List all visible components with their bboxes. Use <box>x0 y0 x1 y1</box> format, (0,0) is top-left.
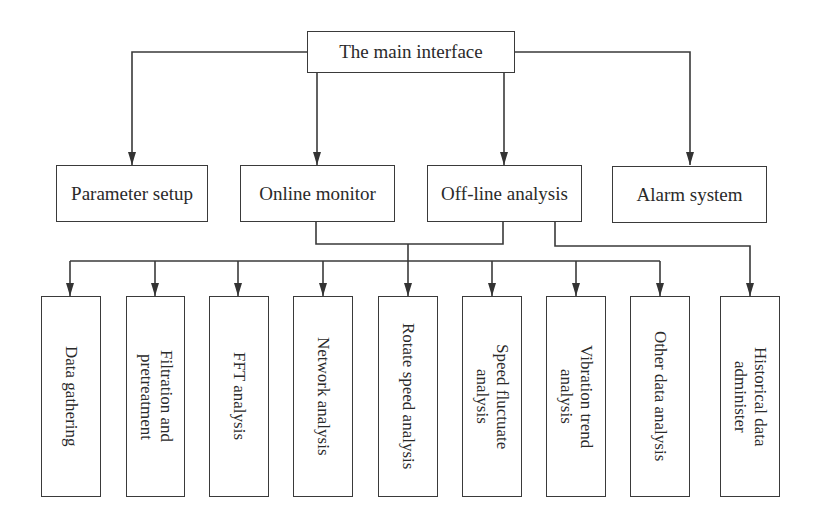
node-label: Data gathering <box>61 346 81 447</box>
node-alarm-system: Alarm system <box>612 166 767 223</box>
node-label: Other data analysis <box>650 331 670 461</box>
node-main-interface: The main interface <box>307 31 515 73</box>
node-label: Speed fluctuate analysis <box>472 344 512 449</box>
node-label: Off-line analysis <box>441 183 568 205</box>
node-label: FFT analysis <box>229 352 249 440</box>
node-speed-fluctuate-analysis: Speed fluctuate analysis <box>462 296 522 497</box>
node-other-data-analysis: Other data analysis <box>630 296 690 497</box>
node-label: Filtration and pretreatment <box>136 350 176 442</box>
node-label: Alarm system <box>636 184 742 206</box>
node-label: Online monitor <box>259 183 376 205</box>
edge-offline-historical <box>555 221 750 296</box>
node-label: Rotate speed analysis <box>398 323 418 469</box>
edge-root-parameter <box>132 52 307 165</box>
node-vibration-trend-analysis: Vibration trend analysis <box>546 296 606 497</box>
edge-root-alarm <box>515 52 690 165</box>
edge-merge <box>316 221 503 244</box>
diagram-canvas: The main interface Parameter setup Onlin… <box>0 0 820 526</box>
node-filtration-pretreatment: Filtration and pretreatment <box>126 296 185 497</box>
node-rotate-speed-analysis: Rotate speed analysis <box>378 296 438 497</box>
node-online-monitor: Online monitor <box>240 165 395 222</box>
node-historical-data-administer: Historical data administer <box>720 296 780 497</box>
node-label: The main interface <box>339 41 482 63</box>
node-label: Network analysis <box>313 337 333 456</box>
node-network-analysis: Network analysis <box>293 296 353 497</box>
node-label: Vibration trend analysis <box>556 345 596 448</box>
node-parameter-setup: Parameter setup <box>56 165 208 222</box>
node-fft-analysis: FFT analysis <box>209 296 269 497</box>
node-label: Parameter setup <box>71 183 193 205</box>
node-data-gathering: Data gathering <box>41 296 101 497</box>
node-label: Historical data administer <box>730 347 770 447</box>
node-offline-analysis: Off-line analysis <box>427 165 582 222</box>
